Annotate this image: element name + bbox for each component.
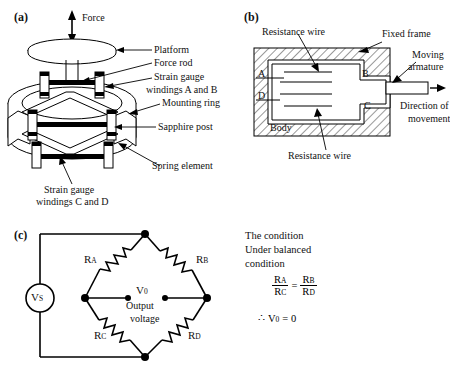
resistor-rd [145,298,207,357]
panel-c-wheatstone-bridge: (c) [0,212,447,372]
moving-armature-rod [386,82,428,94]
voltage-source-label: VS [31,292,43,304]
equation-right-denominator: RD [300,286,316,297]
output-voltage-caption-line2: voltage [130,313,159,324]
resistor-label-rb: RB [196,254,208,266]
label-strain-gauge-cd-line1: Strain gauge [44,184,94,195]
label-node-d: D [258,90,265,101]
balance-equation: RA RC = RB RD [272,274,317,297]
vs-subscript: S [39,294,43,303]
label-force-rod: Force rod [154,57,193,68]
balance-conclusion: ∴ V0 = 0 [258,312,296,324]
label-platform: Platform [154,44,189,55]
label-direction-line2: movement [408,113,450,124]
resistor-label-ra: RA [84,254,97,266]
label-node-b: B [362,68,369,79]
v0-symbol: V [136,284,144,296]
rd-sub: D [195,332,200,341]
rc-sub: C [101,332,106,341]
label-resistance-wire-top: Resistance wire [262,26,325,37]
platform-disc [28,39,116,64]
direction-arrow [430,84,446,92]
resistor-label-rd: RD [188,330,201,342]
equation-operator: = [291,280,297,291]
conclusion-equals-zero: = 0 [282,313,296,324]
label-body: Body [270,122,292,133]
resistor-label-rc: RC [94,330,106,342]
label-force: Force [82,12,105,23]
label-node-a: A [258,68,265,79]
output-voltage-symbol: V0 [136,285,148,297]
equation-left-denominator: RC [272,286,288,297]
label-strain-gauge-cd-line2: windings C and D [36,196,109,207]
label-sapphire-post: Sapphire post [158,121,213,132]
note-line1: The condition [245,230,304,241]
vs-symbol: V [31,291,39,303]
resistor-rb [145,234,207,298]
equation-left-numerator: RA [272,274,288,286]
panel-b-moving-armature: (b) [240,0,447,212]
label-moving-armature-line2: armature [408,61,444,72]
label-fixed-frame: Fixed frame [382,28,431,39]
panel-a-load-cell: (a) [0,0,240,212]
equation-right-numerator: RB [300,274,316,286]
equation-right-fraction: RB RD [300,274,316,297]
label-direction-line1: Direction of [400,100,449,111]
therefore-symbol: ∴ [258,312,265,324]
equation-left-fraction: RA RC [272,274,288,297]
label-moving-armature-line1: Moving [412,49,444,60]
v0-sub: 0 [144,287,148,296]
note-line2: Under balanced [245,244,311,255]
label-spring-element: Spring element [152,160,213,171]
note-line3: condition [245,258,285,269]
ra-sub: A [91,256,96,265]
label-windings-ab: windings A and B [146,84,217,95]
output-voltage-caption-line1: Output [126,300,154,311]
label-resistance-wire-bottom: Resistance wire [288,150,351,161]
label-mounting-ring: Mounting ring [162,97,220,108]
label-strain-gauge: Strain gauge [154,71,204,82]
rb-sub: B [203,256,208,265]
conclusion-v0: V0 [268,313,279,324]
label-node-c: C [364,100,371,111]
